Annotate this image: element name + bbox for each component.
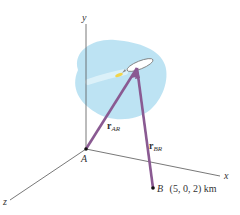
- x-axis: [86, 149, 220, 176]
- vector-diagram: y x z A B (5, 0, 2) km rAR rBR: [0, 0, 240, 215]
- z-axis-label: z: [3, 197, 7, 207]
- point-B: [151, 186, 155, 190]
- z-axis: [10, 149, 86, 200]
- vector-r-AR-label: rAR: [107, 121, 120, 133]
- point-B-coordinates: (5, 0, 2) km: [170, 183, 217, 194]
- point-B-name: B: [157, 183, 163, 194]
- sky-cloud: [75, 40, 166, 119]
- y-axis-label: y: [82, 13, 86, 23]
- point-A: [84, 147, 88, 151]
- vector-r-BR-label: rBR: [149, 141, 162, 153]
- point-B-label: B (5, 0, 2) km: [157, 184, 217, 194]
- point-A-label: A: [81, 154, 87, 164]
- x-axis-label: x: [224, 171, 228, 181]
